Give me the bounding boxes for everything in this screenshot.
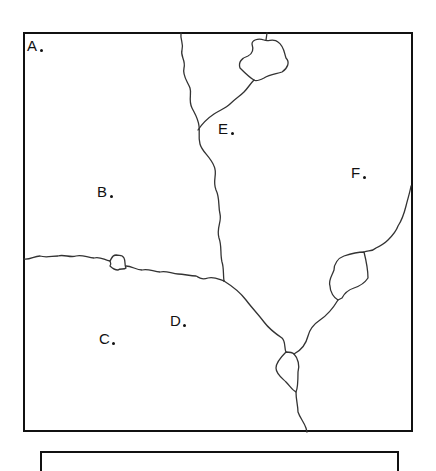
point-d: D (170, 313, 186, 328)
boundary-west-east (126, 266, 224, 281)
point-e-label: E (218, 120, 229, 137)
river-east-upper (364, 186, 411, 252)
lake-east (329, 252, 368, 300)
river-south (296, 392, 307, 432)
boundary-west (24, 255, 110, 261)
point-b-dot (110, 195, 113, 198)
lake-north (239, 39, 288, 81)
point-e-dot (231, 132, 234, 135)
river-north-west (181, 33, 224, 281)
river-southeast (224, 281, 286, 352)
point-c: C (99, 331, 115, 346)
lake-west (110, 255, 126, 270)
point-b: B (97, 184, 113, 199)
river-east-branch (294, 300, 338, 354)
point-d-label: D (170, 312, 181, 329)
point-f-dot (363, 176, 366, 179)
point-d-dot (183, 324, 186, 327)
point-a-dot (40, 49, 43, 52)
point-f-label: F (351, 164, 361, 181)
point-a: A (27, 38, 43, 53)
point-b-label: B (97, 183, 108, 200)
point-c-dot (112, 342, 115, 345)
point-a-label: A (27, 37, 38, 54)
river-north-stub (266, 33, 267, 40)
lake-south (276, 352, 299, 392)
point-f: F (351, 165, 366, 180)
point-e: E (218, 121, 234, 136)
point-c-label: C (99, 330, 110, 347)
